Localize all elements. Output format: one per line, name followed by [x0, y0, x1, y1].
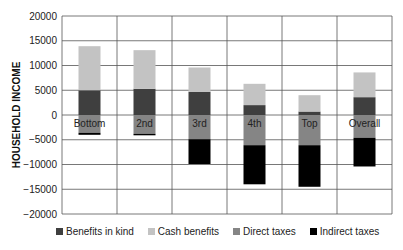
bar-segment-cash-benefits: [79, 46, 101, 90]
y-axis-ticks: 20000150001000050000−5000−10000−15000−20…: [23, 11, 57, 220]
bar-segment-cash-benefits: [134, 50, 156, 89]
legend-item: Direct taxes: [233, 226, 296, 237]
y-tick-label: 0: [51, 110, 57, 121]
category-label: Top: [301, 118, 318, 129]
bar-segment-indirect-taxes: [189, 139, 211, 164]
bar-segment-indirect-taxes: [354, 138, 376, 167]
bar-segment-cash-benefits: [189, 67, 211, 91]
category-label: Bottom: [74, 118, 106, 129]
y-tick-label: 20000: [29, 11, 57, 22]
category-label: 3rd: [192, 118, 206, 129]
legend-item: Benefits in kind: [56, 226, 134, 237]
bar-segment-benefits-in-kind: [244, 105, 266, 115]
legend-item: Indirect taxes: [310, 226, 379, 237]
bar-segment-indirect-taxes: [134, 134, 156, 135]
bar-segment-benefits-in-kind: [189, 92, 211, 115]
grid: [62, 16, 392, 214]
bar-segment-benefits-in-kind: [79, 90, 101, 115]
legend-label: Cash benefits: [158, 226, 219, 237]
y-tick-label: −20000: [23, 209, 57, 220]
category-label: 2nd: [136, 118, 153, 129]
y-tick-label: 15000: [29, 35, 57, 46]
y-tick-label: −10000: [23, 159, 57, 170]
category-label: Overall: [349, 118, 381, 129]
bar-segment-benefits-in-kind: [134, 89, 156, 115]
bar-segment-indirect-taxes: [299, 145, 321, 187]
legend-label: Benefits in kind: [66, 226, 134, 237]
legend-swatch: [310, 228, 317, 235]
legend-swatch: [148, 228, 155, 235]
bar-segment-benefits-in-kind: [354, 97, 376, 115]
bar-segment-cash-benefits: [299, 95, 321, 111]
y-tick-label: −15000: [23, 184, 57, 195]
bar-segment-cash-benefits: [244, 84, 266, 105]
y-tick-label: 5000: [35, 85, 58, 96]
legend-label: Indirect taxes: [320, 226, 379, 237]
bar-segment-cash-benefits: [354, 72, 376, 97]
legend: Benefits in kindCash benefitsDirect taxe…: [56, 226, 379, 237]
legend-label: Direct taxes: [243, 226, 296, 237]
legend-swatch: [233, 228, 240, 235]
bar-segment-benefits-in-kind: [299, 112, 321, 115]
bar-segment-indirect-taxes: [79, 133, 101, 135]
legend-item: Cash benefits: [148, 226, 219, 237]
bar-segment-indirect-taxes: [244, 145, 266, 184]
y-tick-label: 10000: [29, 60, 57, 71]
y-axis-label: HOUSEHOLD INCOME: [11, 61, 22, 168]
legend-swatch: [56, 228, 63, 235]
y-tick-label: −5000: [29, 134, 58, 145]
stacked-bar-chart: 20000150001000050000−5000−10000−15000−20…: [0, 0, 403, 225]
category-label: 4th: [248, 118, 262, 129]
